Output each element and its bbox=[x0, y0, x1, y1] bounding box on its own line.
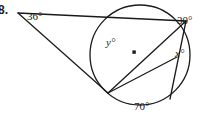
circle-center-marker bbox=[132, 50, 135, 53]
angle-label-36: 36° bbox=[27, 11, 42, 22]
lower-secant-line bbox=[18, 13, 108, 93]
angle-label-30: 30° bbox=[177, 15, 192, 26]
secondary-chord-line bbox=[108, 57, 177, 93]
geometry-figure: 8. 36° 30° y° x° 70° bbox=[0, 0, 205, 116]
angle-label-x: x° bbox=[175, 48, 184, 59]
problem-number-label: 8. bbox=[0, 4, 8, 16]
arc-label-70: 70° bbox=[134, 101, 149, 112]
upper-secant-line bbox=[18, 13, 186, 21]
arc-label-y: y° bbox=[106, 37, 115, 48]
